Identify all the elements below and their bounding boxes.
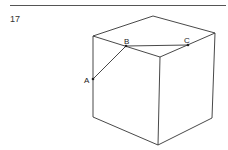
- edge-front: [158, 57, 160, 145]
- top-face: [93, 16, 215, 57]
- segment-bc: [126, 45, 188, 46]
- edge-bottom-left: [93, 117, 158, 145]
- edge-right: [212, 33, 215, 118]
- label-b: B: [124, 37, 129, 46]
- segment-ab: [93, 46, 126, 79]
- edge-bottom-right: [158, 118, 212, 145]
- points: [92, 44, 190, 81]
- point-a: [92, 78, 95, 81]
- cube-edges: [93, 16, 215, 145]
- cube-diagram: A B C: [0, 0, 228, 150]
- label-c: C: [184, 36, 190, 45]
- label-a: A: [84, 76, 90, 85]
